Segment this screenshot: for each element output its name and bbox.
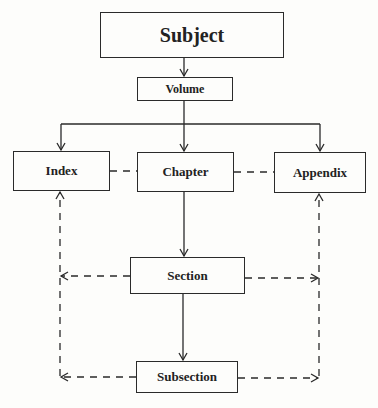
node-subsection-label: Subsection [157, 369, 217, 385]
node-volume-label: Volume [166, 82, 205, 97]
node-index: Index [13, 151, 110, 191]
node-chapter: Chapter [137, 152, 234, 192]
node-subsection: Subsection [136, 361, 238, 393]
node-volume: Volume [137, 77, 233, 101]
node-chapter-label: Chapter [162, 164, 208, 180]
node-section-label: Section [167, 268, 207, 284]
connector-lines [0, 0, 378, 408]
node-section: Section [130, 257, 245, 294]
node-subject: Subject [100, 12, 284, 58]
node-index-label: Index [46, 163, 78, 179]
node-subject-label: Subject [160, 24, 224, 47]
node-appendix-label: Appendix [293, 165, 347, 181]
node-appendix: Appendix [274, 152, 366, 193]
